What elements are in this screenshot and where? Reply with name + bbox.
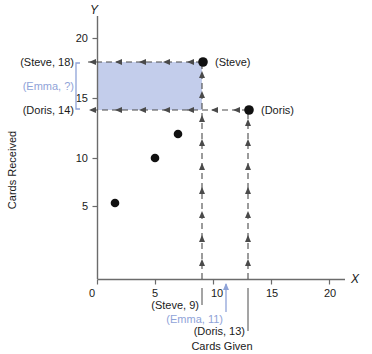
scatter-plot-svg: 0 5 10 15 20 5 10 15 20 Y X — [0, 0, 372, 354]
y-tick-label-5: 5 — [82, 200, 88, 212]
label-doris-y: (Doris, 14) — [23, 104, 74, 116]
label-doris-point: (Doris) — [261, 104, 294, 116]
data-point-1 — [111, 199, 120, 208]
data-point-steve — [198, 57, 208, 67]
y-tick-label-15: 15 — [76, 92, 88, 104]
y-axis-title: Cards Received — [6, 131, 18, 209]
label-steve-x: (Steve, 9) — [151, 299, 199, 311]
label-steve-y: (Steve, 18) — [20, 56, 74, 68]
x-tick-label-15: 15 — [266, 287, 278, 299]
chart-figure: 0 5 10 15 20 5 10 15 20 Y X — [0, 0, 372, 354]
x-axis-letter: X — [350, 272, 360, 286]
x-tick-label-10: 10 — [211, 287, 223, 299]
label-doris-x: (Doris, 13) — [194, 325, 245, 337]
x-tick-label-20: 20 — [324, 287, 336, 299]
x-axis-title: Cards Given — [191, 340, 252, 352]
x-tick-label-5: 5 — [152, 287, 158, 299]
data-point-2 — [151, 154, 160, 163]
label-emma-y: (Emma, ?) — [23, 80, 74, 92]
emma-x-arrow-head — [223, 283, 229, 290]
data-point-3 — [174, 130, 183, 139]
highlight-region — [98, 62, 202, 110]
y-axis-letter: Y — [90, 3, 99, 17]
y-tick-label-20: 20 — [76, 32, 88, 44]
x-tick-label-0: 0 — [89, 287, 95, 299]
data-point-doris — [244, 105, 254, 115]
label-steve-point: (Steve) — [215, 56, 250, 68]
y-tick-label-10: 10 — [76, 152, 88, 164]
label-emma-x: (Emma, 11) — [166, 313, 223, 325]
